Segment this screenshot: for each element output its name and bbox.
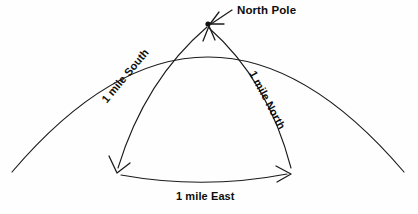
south-leg-path — [118, 27, 207, 168]
pole-leader-arrowhead-icon — [210, 12, 224, 24]
pole-leader-line — [211, 10, 232, 24]
north-pole-label: North Pole — [237, 5, 296, 17]
east-leg-path — [121, 174, 287, 182]
east-arrowhead-icon — [276, 166, 291, 182]
diagram-svg — [0, 0, 418, 214]
north-pole-dot — [205, 21, 210, 26]
diagram-canvas: North Pole 1 mile South 1 mile North 1 m… — [0, 0, 418, 214]
mile-east-label: 1 mile East — [176, 191, 235, 202]
globe-surface-arc — [12, 57, 404, 172]
north-leg-path — [209, 28, 291, 168]
